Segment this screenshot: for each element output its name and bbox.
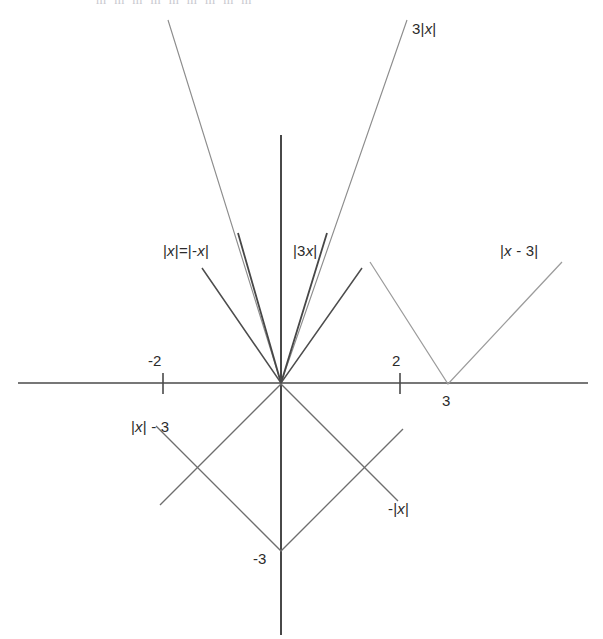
label-negative-abs-x-post: |: [405, 500, 409, 517]
label-3-abs-x: 3|x|: [412, 20, 436, 37]
tick-label-2: 2: [392, 352, 400, 369]
curve-abs-x-equals-abs-neg-x: [202, 268, 362, 383]
label-abs-3x-pre: |3: [293, 242, 306, 259]
label-abs-x-equals-abs-neg-x: |x|=|-x|: [163, 242, 209, 259]
label-abs-3x-post: |: [313, 242, 317, 259]
label-negative-abs-x-var: x: [397, 500, 405, 517]
curve-negative-abs-x: [160, 384, 398, 505]
curve-abs-x-sub-3: [156, 426, 403, 551]
axes-group: [18, 135, 588, 635]
label-abs-x-eq-p3: |: [205, 242, 209, 259]
label-negative-abs-x: -|x|: [388, 500, 409, 517]
plot-canvas: [0, 0, 603, 639]
tick-label-minus-3: -3: [253, 550, 266, 567]
absolute-value-graph-figure: m m m m m m m m m: [0, 0, 603, 639]
label-abs-x-sub-3-var: x: [135, 418, 143, 435]
label-abs-x-eq-v2: x: [197, 242, 205, 259]
label-abs-x-sub-3-post: | - 3: [143, 418, 170, 435]
label-3-abs-x-pre: 3|: [412, 20, 425, 37]
label-abs-3x: |3x|: [293, 242, 317, 259]
tick-label-minus-2: -2: [148, 352, 161, 369]
label-3-abs-x-post: |: [432, 20, 436, 37]
label-negative-abs-x-pre: -|: [388, 500, 397, 517]
label-abs-x-minus-3: |x - 3|: [500, 242, 538, 259]
label-abs-x-minus-3-var: x: [504, 242, 512, 259]
curve-3-abs-x: [168, 20, 407, 383]
label-abs-x-eq-v1: x: [167, 242, 175, 259]
label-abs-x-eq-p2: |=|-: [175, 242, 197, 259]
tick-label-3: 3: [442, 392, 450, 409]
label-abs-x-minus-3-post: - 3|: [512, 242, 539, 259]
label-abs-x-sub-3: |x| - 3: [131, 418, 169, 435]
